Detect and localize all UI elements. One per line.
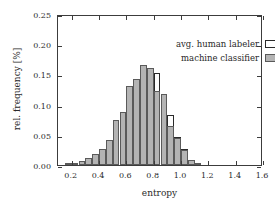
x-tick-mark bbox=[154, 161, 155, 165]
x-tick-label: 1.4 bbox=[228, 171, 241, 180]
x-tick-mark bbox=[208, 161, 209, 165]
y-tick-label: 0.20 bbox=[0, 41, 51, 50]
bar-machine-classifier bbox=[167, 126, 174, 165]
bar-machine-classifier bbox=[85, 158, 92, 165]
chart-figure: rel. frequency [%] 0.000.050.100.150.200… bbox=[0, 0, 275, 210]
y-tick-label: 0.00 bbox=[0, 162, 51, 171]
bar-machine-classifier bbox=[72, 163, 79, 165]
legend-label-human: avg. human labeler bbox=[176, 39, 259, 49]
x-tick-label: 1.2 bbox=[201, 171, 214, 180]
y-axis-title: rel. frequency [%] bbox=[12, 14, 22, 164]
y-tick-mark bbox=[58, 107, 62, 108]
bar-machine-classifier bbox=[99, 149, 106, 165]
x-tick-mark-top bbox=[72, 16, 73, 20]
x-tick-mark bbox=[72, 161, 73, 165]
legend-item-machine: machine classifier bbox=[176, 52, 275, 63]
y-tick-mark bbox=[58, 76, 62, 77]
x-tick-label: 0.8 bbox=[146, 171, 159, 180]
x-tick-label: 0.2 bbox=[64, 171, 77, 180]
bar-machine-classifier bbox=[106, 140, 113, 165]
x-tick-mark-top bbox=[263, 16, 264, 20]
x-tick-mark bbox=[236, 161, 237, 165]
y-tick-label: 0.15 bbox=[0, 71, 51, 80]
bar-machine-classifier bbox=[120, 112, 127, 165]
bar-machine-classifier bbox=[65, 163, 72, 165]
x-tick-label: 0.4 bbox=[92, 171, 105, 180]
y-tick-mark-right bbox=[257, 167, 261, 168]
chart-legend: avg. human labeler machine classifier bbox=[176, 38, 275, 63]
x-axis-title: entropy bbox=[57, 188, 262, 198]
bar-machine-classifier bbox=[161, 94, 168, 165]
bar-machine-classifier bbox=[181, 150, 188, 165]
legend-swatch-machine bbox=[265, 54, 275, 62]
y-tick-mark-right bbox=[257, 16, 261, 17]
y-tick-mark bbox=[58, 46, 62, 47]
legend-label-machine: machine classifier bbox=[181, 53, 259, 63]
plot-area: avg. human labeler machine classifier bbox=[57, 15, 262, 166]
x-tick-mark bbox=[99, 161, 100, 165]
x-tick-mark-top bbox=[154, 16, 155, 20]
bar-machine-classifier bbox=[140, 65, 147, 165]
x-tick-mark-top bbox=[99, 16, 100, 20]
y-tick-mark-right bbox=[257, 137, 261, 138]
x-tick-mark bbox=[263, 161, 264, 165]
x-tick-label: 1.0 bbox=[174, 171, 187, 180]
bar-machine-classifier bbox=[154, 91, 161, 165]
bar-machine-classifier bbox=[195, 163, 202, 165]
x-tick-label: 0.6 bbox=[119, 171, 132, 180]
bar-machine-classifier bbox=[126, 86, 133, 165]
y-tick-mark bbox=[58, 137, 62, 138]
x-tick-mark-top bbox=[236, 16, 237, 20]
y-tick-mark bbox=[58, 167, 62, 168]
x-tick-mark bbox=[126, 161, 127, 165]
x-tick-mark-top bbox=[208, 16, 209, 20]
y-tick-label: 0.10 bbox=[0, 101, 51, 110]
bar-machine-classifier bbox=[188, 160, 195, 165]
bar-machine-classifier bbox=[147, 68, 154, 165]
bar-machine-classifier bbox=[113, 120, 120, 165]
y-tick-label: 0.05 bbox=[0, 131, 51, 140]
bar-machine-classifier bbox=[79, 161, 86, 165]
bar-machine-classifier bbox=[92, 154, 99, 165]
x-tick-mark bbox=[181, 161, 182, 165]
x-tick-label: 1.6 bbox=[256, 171, 269, 180]
bar-machine-classifier bbox=[174, 138, 181, 165]
y-tick-mark bbox=[58, 16, 62, 17]
y-tick-mark-right bbox=[257, 107, 261, 108]
legend-item-human: avg. human labeler bbox=[176, 38, 275, 49]
y-tick-label: 0.25 bbox=[0, 11, 51, 20]
y-tick-mark-right bbox=[257, 76, 261, 77]
legend-swatch-human bbox=[265, 40, 275, 48]
x-tick-mark-top bbox=[126, 16, 127, 20]
bar-machine-classifier bbox=[133, 79, 140, 165]
x-tick-mark-top bbox=[181, 16, 182, 20]
